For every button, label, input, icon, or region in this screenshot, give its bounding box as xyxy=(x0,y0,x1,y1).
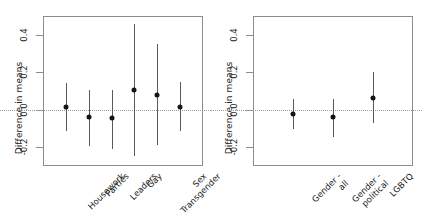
y-tick--0.2 xyxy=(246,147,253,148)
zero-line xyxy=(211,110,422,111)
y-tick-label-text: -0.2 xyxy=(229,139,239,156)
plot-frame-right xyxy=(253,16,413,166)
y-tick-label: -0.2 xyxy=(14,141,34,153)
y-tick-label-text: 0.4 xyxy=(229,28,239,42)
y-tick-label-text: 0.2 xyxy=(19,65,29,79)
data-point xyxy=(109,116,114,121)
panel-right: Difference in means 0.40.20.0-0.2 Gender… xyxy=(211,0,422,215)
data-point xyxy=(63,104,68,109)
y-tick-label: 0.4 xyxy=(14,29,34,41)
y-tick-label-text: 0.2 xyxy=(229,65,239,79)
x-axis-label: Gender - all xyxy=(310,171,350,211)
y-tick-0.2 xyxy=(246,72,253,73)
plot-frame-left xyxy=(43,16,203,166)
data-point xyxy=(132,88,137,93)
y-tick-label: 0.2 xyxy=(14,66,34,78)
data-point xyxy=(331,115,336,120)
data-point xyxy=(371,95,376,100)
data-point xyxy=(155,92,160,97)
data-point xyxy=(178,104,183,109)
y-tick-label-text: -0.2 xyxy=(19,139,29,156)
data-point xyxy=(86,115,91,120)
data-point xyxy=(291,111,296,116)
y-tick-label-text: 0.4 xyxy=(19,28,29,42)
x-axis-label: Gender - political xyxy=(350,171,390,211)
y-tick--0.2 xyxy=(36,147,43,148)
y-tick-label: -0.2 xyxy=(224,141,244,153)
coefficient-plot-figure: Difference in means 0.40.20.0-0.2 Housew… xyxy=(0,0,423,215)
y-tick-0.4 xyxy=(36,35,43,36)
y-tick-label: 0.2 xyxy=(224,66,244,78)
panel-left: Difference in means 0.40.20.0-0.2 Housew… xyxy=(0,0,211,215)
y-tick-label: 0.4 xyxy=(224,29,244,41)
x-axis-label: LGBTQ xyxy=(388,171,416,199)
y-tick-0.2 xyxy=(36,72,43,73)
y-tick-0.4 xyxy=(246,35,253,36)
